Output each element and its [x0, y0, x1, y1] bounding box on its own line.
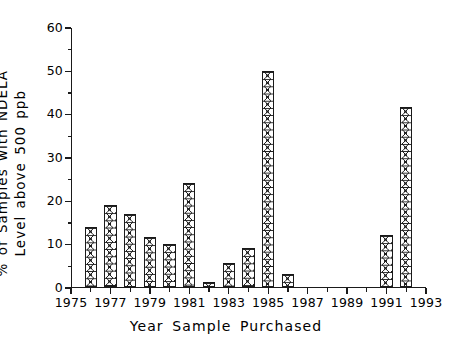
bar — [380, 235, 392, 287]
y-tick-major — [65, 114, 71, 115]
y-tick-label: 40 — [47, 108, 63, 121]
y-tick-minor — [68, 179, 72, 180]
x-tick-major — [346, 288, 347, 294]
x-tick-major — [268, 288, 269, 294]
x-tick-label: 1987 — [291, 297, 324, 310]
y-axis-title-text: % of Samples with NDELA Level above 500 … — [0, 70, 29, 276]
bar — [85, 227, 97, 286]
bar — [183, 183, 195, 287]
y-tick-label: 30 — [47, 152, 63, 165]
x-tick-minor — [130, 288, 131, 292]
bar — [262, 71, 274, 287]
y-axis-title: % of Samples with NDELA Level above 500 … — [0, 0, 26, 347]
bar — [242, 248, 254, 287]
y-tick-major — [65, 157, 71, 158]
bar — [203, 282, 215, 286]
y-tick-minor — [68, 136, 72, 137]
y-tick-minor — [68, 222, 72, 223]
bar — [144, 237, 156, 287]
x-tick-major — [70, 288, 71, 294]
bar — [282, 274, 294, 286]
y-axis-title-line1: % of Samples with NDELA — [0, 70, 10, 276]
x-tick-label: 1975 — [55, 297, 88, 310]
y-tick-minor — [68, 49, 72, 50]
x-tick-label: 1993 — [410, 297, 443, 310]
y-tick-major — [65, 244, 71, 245]
x-tick-major — [110, 288, 111, 294]
y-tick-minor — [68, 92, 72, 93]
x-tick-minor — [327, 288, 328, 292]
y-axis-title-line2: Level above 500 ppb — [12, 90, 28, 256]
y-tick-minor — [68, 266, 72, 267]
y-tick-label: 60 — [47, 22, 63, 35]
x-tick-minor — [406, 288, 407, 292]
x-tick-minor — [169, 288, 170, 292]
x-tick-label: 1983 — [212, 297, 245, 310]
plot-area: 0102030405060 19751977197919811983198519… — [71, 28, 426, 288]
y-axis-spine — [71, 28, 72, 288]
bar — [163, 244, 175, 286]
x-tick-major — [189, 288, 190, 294]
bar — [124, 214, 136, 286]
x-axis-title: Year Sample Purchased — [0, 318, 452, 334]
x-tick-label: 1981 — [173, 297, 206, 310]
x-tick-label: 1989 — [331, 297, 364, 310]
x-tick-label: 1991 — [370, 297, 403, 310]
x-tick-label: 1985 — [252, 297, 285, 310]
x-tick-minor — [366, 288, 367, 292]
x-tick-major — [386, 288, 387, 294]
y-tick-major — [65, 27, 71, 28]
x-tick-major — [149, 288, 150, 294]
x-tick-major — [307, 288, 308, 294]
x-tick-minor — [287, 288, 288, 292]
y-tick-label: 20 — [47, 195, 63, 208]
x-tick-label: 1979 — [134, 297, 167, 310]
y-tick-label: 0 — [55, 282, 63, 295]
y-tick-label: 10 — [47, 238, 63, 251]
x-tick-minor — [208, 288, 209, 292]
x-tick-minor — [248, 288, 249, 292]
x-tick-label: 1977 — [94, 297, 127, 310]
bar — [400, 107, 412, 287]
x-tick-major — [425, 288, 426, 294]
y-tick-major — [65, 71, 71, 72]
y-tick-major — [65, 201, 71, 202]
x-tick-minor — [90, 288, 91, 292]
bar — [104, 205, 116, 286]
bar — [223, 263, 235, 287]
x-tick-major — [228, 288, 229, 294]
y-tick-label: 50 — [47, 65, 63, 78]
chart-figure: % of Samples with NDELA Level above 500 … — [0, 0, 452, 347]
